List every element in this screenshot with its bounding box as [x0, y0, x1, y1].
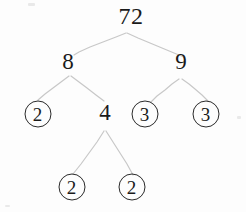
node-label: 8: [62, 50, 74, 73]
scan-artifact: [237, 116, 241, 119]
node-label: 9: [175, 50, 187, 73]
tree-edge-n9-to-n3a: [151, 79, 179, 102]
node-label: 4: [99, 101, 111, 124]
prime-factor-node-n2c: 2: [118, 174, 145, 201]
node-label: 3: [140, 104, 150, 123]
prime-factor-node-n3b: 3: [192, 101, 219, 128]
tree-edge-n8-to-n4: [71, 76, 104, 101]
factor-node-n4: 4: [99, 101, 111, 124]
node-label: 2: [127, 177, 137, 196]
factor-node-n9: 9: [175, 50, 187, 73]
node-label: 72: [119, 4, 144, 28]
node-label: 3: [201, 104, 211, 123]
tree-edge-n8-to-n2a: [38, 76, 69, 100]
tree-edge-n4-to-n2c: [106, 131, 133, 175]
prime-factor-node-n2a: 2: [24, 101, 51, 128]
factor-tree-canvas: 7289243322: [0, 0, 246, 212]
factor-node-root: 72: [119, 4, 144, 28]
scan-artifact: [28, 3, 35, 6]
tree-edge-n4-to-n2b: [73, 131, 104, 174]
prime-factor-node-n3a: 3: [131, 101, 158, 128]
node-label: 2: [67, 177, 77, 196]
scan-artifact: [5, 205, 10, 207]
factor-node-n8: 8: [62, 50, 74, 73]
tree-edge-n9-to-n3b: [182, 79, 208, 101]
prime-factor-node-n2b: 2: [58, 174, 85, 201]
tree-edge-root-to-n8: [74, 33, 126, 55]
node-label: 2: [33, 104, 43, 123]
